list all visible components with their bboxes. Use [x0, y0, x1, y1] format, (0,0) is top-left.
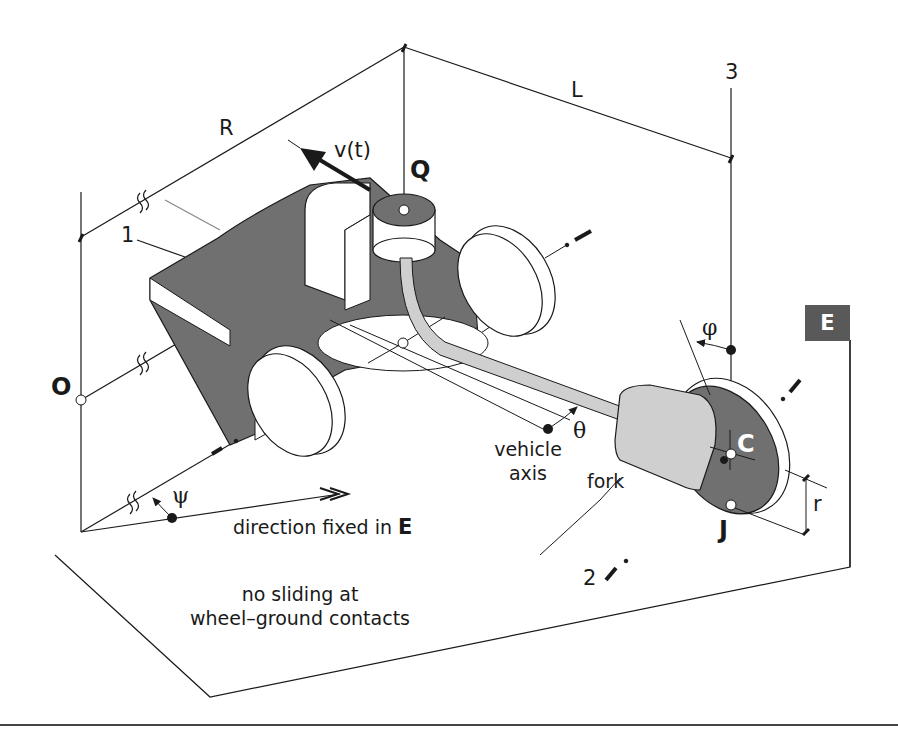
- leader-1: [137, 240, 185, 257]
- direction-frame-E: E: [398, 515, 412, 539]
- point-C: [726, 449, 736, 459]
- fork: [615, 385, 716, 490]
- point-ground-center: [398, 338, 408, 348]
- vehicle-axis-line2: axis: [478, 462, 578, 486]
- constraint-line2: wheel–ground contacts: [160, 607, 440, 631]
- label-constraint: no sliding at wheel–ground contacts: [160, 583, 440, 631]
- point-J: [726, 500, 736, 510]
- label-vehicle-axis: vehicle axis: [478, 438, 578, 486]
- thin-line-1: [165, 200, 220, 230]
- label-fork: fork: [587, 472, 624, 491]
- label-phi: φ: [702, 317, 717, 339]
- label-point-Q: Q: [410, 158, 430, 182]
- constraint-line1: no sliding at: [160, 583, 440, 607]
- label-axis-3: 3: [725, 62, 738, 83]
- pivot-cylinder-Q: [373, 194, 435, 262]
- bottom-rule: [0, 724, 898, 726]
- label-psi: ψ: [172, 485, 189, 507]
- frame-E-badge: E: [805, 305, 850, 341]
- label-point-C: C: [737, 432, 755, 456]
- label-velocity: v(t): [334, 140, 371, 161]
- point-Q: [399, 205, 409, 215]
- label-direction-fixed: direction fixed in E: [233, 517, 412, 538]
- label-R: R: [219, 118, 234, 139]
- dimension-L-line: [404, 47, 731, 158]
- label-radius-r: r: [813, 494, 822, 515]
- vehicle-axis-line1: vehicle: [478, 438, 578, 462]
- label-point-O: O: [51, 375, 71, 399]
- label-axis-1: 1: [121, 225, 134, 246]
- mechanism-diagram: [0, 0, 898, 741]
- point-O: [76, 395, 86, 405]
- label-L: L: [571, 80, 583, 101]
- label-axis-2: 2: [583, 568, 596, 589]
- direction-text: direction fixed in: [233, 516, 398, 538]
- label-point-J: J: [719, 518, 728, 542]
